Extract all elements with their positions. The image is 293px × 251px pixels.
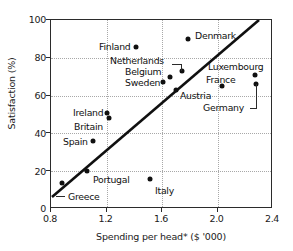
chart-container: Satisfaction (%) 100 80 60 40 20 0 0.8 1… bbox=[0, 0, 293, 251]
data-point-finland[interactable] bbox=[133, 44, 138, 49]
label-luxembourg: Luxembourg bbox=[208, 62, 263, 71]
label-denmark: Denmark bbox=[195, 31, 236, 40]
gridline-x-16 bbox=[162, 20, 163, 207]
plot-area: Greece Portugal Spain Ireland Britain Fi… bbox=[50, 19, 272, 208]
y-tick-label-40: 40 bbox=[20, 128, 46, 139]
x-tick-label-24: 2.4 bbox=[255, 213, 289, 224]
leader-greece-horizontal bbox=[56, 196, 65, 197]
gridline-y-60 bbox=[51, 96, 271, 97]
x-tick-mark-16 bbox=[161, 208, 162, 212]
label-spain: Spain bbox=[63, 137, 88, 146]
data-point-spain[interactable] bbox=[90, 138, 95, 143]
data-point-denmark[interactable] bbox=[186, 36, 191, 41]
label-greece: Greece bbox=[68, 192, 100, 201]
leader-germany-vertical bbox=[256, 84, 257, 108]
x-tick-label-16: 1.6 bbox=[144, 213, 178, 224]
gridline-x-20 bbox=[218, 20, 219, 207]
label-ireland: Ireland bbox=[73, 108, 103, 117]
data-point-italy[interactable] bbox=[147, 176, 152, 181]
label-belgium: Belgium bbox=[125, 67, 161, 76]
data-point-austria[interactable] bbox=[173, 87, 178, 92]
label-britain: Britain bbox=[74, 122, 103, 131]
leader-netherlands-horizontal bbox=[172, 64, 181, 65]
label-finland: Finland bbox=[99, 42, 130, 51]
data-point-ireland[interactable] bbox=[104, 110, 109, 115]
label-sweden: Sweden bbox=[125, 78, 160, 87]
label-france: France bbox=[206, 75, 235, 84]
y-tick-label-100: 100 bbox=[20, 14, 46, 25]
label-austria: Austria bbox=[180, 91, 211, 100]
y-axis-title: Satisfaction (%) bbox=[6, 34, 17, 154]
gridline-y-40 bbox=[51, 133, 271, 134]
x-tick-label-12: 1.2 bbox=[89, 213, 123, 224]
x-tick-mark-08 bbox=[50, 208, 51, 212]
y-tick-label-60: 60 bbox=[20, 90, 46, 101]
data-point-belgium[interactable] bbox=[168, 74, 173, 79]
x-tick-mark-12 bbox=[106, 208, 107, 212]
x-tick-label-08: 0.8 bbox=[33, 213, 67, 224]
y-tick-label-80: 80 bbox=[20, 52, 46, 63]
leader-netherlands-vertical bbox=[181, 64, 182, 71]
data-point-britain[interactable] bbox=[107, 116, 112, 121]
x-tick-label-20: 2.0 bbox=[200, 213, 234, 224]
label-germany: Germany bbox=[203, 103, 244, 112]
label-italy: Italy bbox=[155, 186, 174, 195]
leader-germany-horizontal bbox=[250, 108, 257, 109]
data-point-greece[interactable] bbox=[60, 180, 65, 185]
x-axis-title: Spending per head* ($ '000) bbox=[50, 231, 272, 242]
data-point-sweden[interactable] bbox=[161, 80, 166, 85]
x-tick-mark-20 bbox=[217, 208, 218, 212]
label-portugal: Portugal bbox=[93, 175, 130, 184]
data-point-portugal[interactable] bbox=[85, 169, 90, 174]
data-point-luxembourg[interactable] bbox=[252, 72, 257, 77]
label-netherlands: Netherlands bbox=[110, 56, 164, 65]
y-tick-label-20: 20 bbox=[20, 166, 46, 177]
